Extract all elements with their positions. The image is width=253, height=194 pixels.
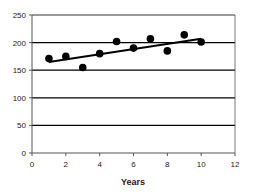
x-tick-label: 0 [30,160,35,169]
data-point [147,35,155,43]
x-tick-label: 12 [231,160,240,169]
data-point [180,31,188,39]
data-point [113,38,121,46]
x-axis-title: Years [121,177,145,187]
y-tick-label: 250 [13,11,27,20]
data-point [79,64,87,72]
y-axis-ticks: 050100150200250 [13,11,32,158]
data-point [130,44,138,52]
data-point [197,38,205,46]
scatter-chart: 050100150200250 024681012 Years [0,0,253,194]
data-point [45,55,53,63]
x-tick-label: 2 [64,160,69,169]
y-tick-label: 0 [22,149,27,158]
x-tick-label: 8 [165,160,170,169]
axes [32,15,235,153]
data-point [96,50,104,58]
data-point [62,53,70,61]
x-tick-label: 4 [97,160,102,169]
x-tick-label: 10 [197,160,206,169]
gridlines [32,15,235,125]
x-axis-ticks: 024681012 [30,153,240,169]
data-point [164,47,172,55]
y-tick-label: 150 [13,66,27,75]
y-tick-label: 100 [13,94,27,103]
y-tick-label: 200 [13,39,27,48]
x-tick-label: 6 [131,160,136,169]
y-tick-label: 50 [17,121,26,130]
